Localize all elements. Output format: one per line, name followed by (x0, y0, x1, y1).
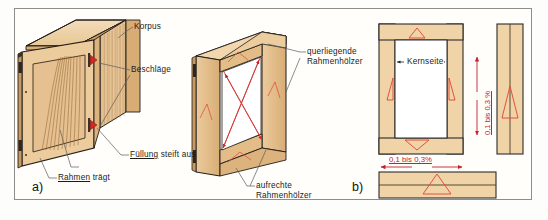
label-rahmen-rest: trägt (90, 173, 110, 182)
label-dimension-vertical: 0,1 bis 0,3 % (483, 91, 492, 135)
label-fuellung-rest: steift aus (158, 150, 195, 159)
label-kernseite: Kernseite (406, 57, 444, 67)
label-querliegende-line1: querliegende (307, 47, 357, 57)
label-aufrechte-line1: aufrechte (256, 181, 292, 191)
label-beschlaege: Beschläge (131, 65, 171, 75)
cabinet-illustration (18, 20, 140, 178)
figure-root: Korpus Beschläge Füllung steift aus Rahm… (0, 0, 548, 220)
label-fuellung-word: Füllung (130, 150, 158, 159)
label-querliegende-line2: Rahmenhölzer (307, 57, 363, 67)
panel-label-a: a) (32, 180, 43, 194)
label-rahmen: Rahmen trägt (58, 173, 110, 183)
label-fuellung: Füllung steift aus (130, 150, 196, 160)
panel-label-b: b) (352, 180, 363, 194)
label-korpus: Korpus (134, 22, 161, 32)
label-rahmen-word: Rahmen (58, 173, 90, 182)
kernseite-diagrams (379, 24, 523, 198)
label-dimension-horizontal: 0,1 bis 0,3% (389, 155, 432, 164)
frame-illustration (192, 32, 306, 186)
label-aufrechte-line2: Rahmenhölzer (256, 191, 312, 201)
